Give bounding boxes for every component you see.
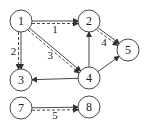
edge-label: 3 [47,49,53,61]
node-8: 8 [78,96,100,118]
dashed-path-3 [28,30,79,73]
solid-edges [21,21,119,108]
edge-7-to-8 [32,107,78,108]
edge-label: 1 [52,23,58,35]
node-3: 3 [10,69,32,91]
edge-label: 4 [101,36,107,48]
node-label: 7 [18,101,24,115]
node-4: 4 [78,67,100,89]
node-5: 5 [117,39,139,61]
nodes: 1234578 [10,10,139,119]
node-2: 2 [78,10,100,32]
node-label: 8 [86,100,92,114]
node-label: 4 [86,71,92,85]
node-label: 5 [125,43,131,57]
edge-label: 2 [11,45,17,57]
node-7: 7 [10,97,32,119]
graph-diagram: 12345 1234578 [0,0,146,129]
node-label: 1 [18,14,24,28]
node-label: 3 [18,73,24,87]
edge-label: 5 [52,109,58,121]
edge-4-to-5 [98,56,119,71]
node-1: 1 [10,10,32,32]
dashed-path-4 [96,30,117,46]
edge-4-to-3 [32,78,78,79]
node-label: 2 [86,14,92,28]
